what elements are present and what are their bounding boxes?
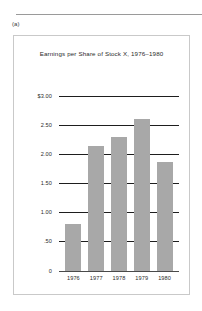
x-axis-tick-label: 1980 [153, 275, 176, 281]
y-axis-tick-label: 1.00 [18, 209, 52, 215]
y-axis-tick-label: .50 [18, 238, 52, 244]
x-axis-tick-label: 1978 [108, 275, 131, 281]
y-axis-tick-label: 1.50 [18, 180, 52, 186]
gridline [59, 96, 179, 97]
bar-1977 [88, 146, 104, 271]
y-axis-tick-label: 0 [18, 268, 52, 274]
plot-area: 0.501.001.502.002.50$3.00197619771978197… [14, 36, 189, 294]
gridline [59, 125, 179, 126]
bar-1979 [134, 119, 150, 271]
x-axis-tick-label: 1977 [85, 275, 108, 281]
x-axis-tick-label: 1976 [62, 275, 85, 281]
chart-frame: Earnings per Share of Stock X, 1976–1980… [13, 35, 190, 295]
y-axis-tick-label: 2.50 [18, 122, 52, 128]
bar-1976 [65, 224, 81, 271]
figure-page: (a) Earnings per Share of Stock X, 1976–… [0, 0, 202, 311]
y-axis-tick-label: 2.00 [18, 151, 52, 157]
figure-label: (a) [12, 21, 20, 27]
x-axis-tick-label: 1979 [130, 275, 153, 281]
bar-1980 [157, 162, 173, 271]
page-top-rule [16, 14, 202, 15]
y-axis-tick-label: $3.00 [18, 93, 52, 99]
bar-1978 [111, 137, 127, 271]
